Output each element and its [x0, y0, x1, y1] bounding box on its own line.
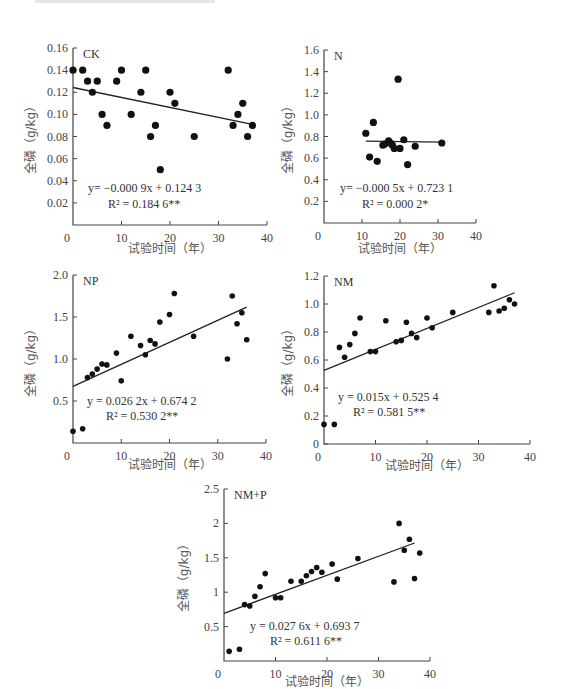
y-tick-label: 0.12 [47, 85, 68, 99]
data-point [242, 602, 248, 608]
data-point [142, 67, 149, 74]
y-tick-label: 0.08 [47, 130, 68, 144]
x-tick-label: 30 [212, 449, 224, 463]
y-tick-label: 2.0 [53, 268, 68, 282]
y-tick-label: 0.14 [47, 63, 68, 77]
data-point [368, 349, 374, 355]
data-point [438, 139, 445, 146]
data-point [319, 569, 325, 575]
x-axis-label: 试验时间（年） [385, 458, 469, 473]
x-tick-label: 0 [64, 231, 70, 245]
data-point [404, 319, 410, 325]
data-point [288, 578, 294, 584]
x-tick-label: 30 [473, 450, 485, 464]
data-point [450, 310, 456, 316]
y-axis-label: 全磷（g/kg） [23, 323, 38, 397]
data-point [69, 67, 76, 74]
data-point [244, 337, 250, 343]
data-point [391, 579, 397, 585]
data-point [409, 331, 415, 337]
x-axis-label: 试验时间（年） [128, 457, 212, 472]
data-point [147, 133, 154, 140]
y-tick-label: 1.2 [304, 86, 319, 100]
x-tick-label: 40 [470, 229, 482, 243]
y-tick-label: 2 [213, 516, 219, 530]
data-point [226, 649, 232, 655]
data-point [417, 550, 423, 556]
x-axis-label: 试验时间（年） [128, 241, 212, 256]
panel-label: NM [334, 275, 354, 289]
x-tick-label: 10 [356, 229, 368, 243]
data-point [414, 335, 420, 341]
data-point [249, 122, 256, 129]
data-point [191, 334, 197, 340]
regression-equation: y = 0.015x + 0.525 4 [338, 390, 439, 404]
x-tick-label: 30 [213, 231, 225, 245]
data-point [398, 338, 404, 344]
data-point [373, 349, 379, 355]
data-point [496, 308, 502, 314]
r-squared: R² = 0.184 6** [108, 197, 180, 211]
data-point [114, 350, 120, 356]
data-point [166, 89, 173, 96]
data-point [234, 111, 241, 118]
data-point [314, 565, 320, 571]
data-point [157, 319, 163, 325]
data-point [401, 547, 407, 553]
data-point [191, 133, 198, 140]
data-point [337, 345, 343, 351]
data-point [491, 283, 497, 289]
x-axis-label: 试验时间（年） [285, 674, 369, 689]
data-point [347, 342, 353, 348]
y-tick-label: 0.6 [304, 151, 319, 165]
y-tick-label: 2.5 [204, 482, 219, 496]
data-point [412, 143, 419, 150]
data-point [70, 428, 76, 434]
regression-line [324, 293, 515, 371]
y-tick-label: 0.5 [204, 620, 219, 634]
r-squared: R² = 0.530 2** [106, 409, 178, 423]
data-point [171, 100, 178, 107]
data-point [225, 356, 231, 362]
phosphorus-scatter-figure: 0.020.040.060.080.100.120.140.1601020304… [0, 0, 561, 689]
y-tick-label: 0.16 [47, 41, 68, 55]
data-point [89, 89, 96, 96]
data-point [395, 76, 402, 83]
data-point [352, 331, 358, 337]
data-point [103, 122, 110, 129]
x-tick-label: 40 [424, 667, 436, 681]
y-tick-label: 0.8 [304, 325, 319, 339]
x-tick-label: 10 [370, 450, 382, 464]
chart-panel-nm: 00.20.40.60.81.01.2010203040NMy = 0.015x… [280, 269, 536, 473]
regression-line [224, 543, 415, 613]
x-tick-label: 10 [115, 449, 127, 463]
y-tick-label: 0.8 [304, 130, 319, 144]
y-tick-label: 1.5 [204, 551, 219, 565]
y-tick-label: 0.2 [304, 194, 319, 208]
y-tick-label: 1.0 [53, 352, 68, 366]
data-point [407, 536, 413, 542]
panel-label: CK [83, 47, 100, 61]
y-tick-label: 1.2 [304, 269, 319, 283]
data-point [383, 318, 389, 324]
data-point [118, 378, 124, 384]
data-point [393, 339, 399, 345]
data-point [370, 119, 377, 126]
y-tick-label: 1.0 [304, 297, 319, 311]
data-point [512, 301, 518, 307]
r-squared: R² = 0.611 6** [270, 634, 342, 648]
regression-equation: y= −0.000 5x + 0.723 1 [340, 181, 453, 195]
data-point [400, 136, 407, 143]
regression-equation: y = 0.026 2x + 0.674 2 [87, 394, 197, 408]
data-point [94, 366, 100, 372]
data-point [309, 569, 315, 575]
data-point [278, 595, 284, 601]
data-point [321, 422, 327, 428]
data-point [85, 375, 91, 381]
x-tick-label: 40 [260, 449, 272, 463]
x-tick-label: 0 [315, 229, 321, 243]
data-point [84, 78, 91, 85]
y-axis-label: 全磷（g/kg） [280, 100, 295, 174]
data-point [396, 521, 402, 527]
y-tick-label: 0.2 [304, 409, 319, 423]
